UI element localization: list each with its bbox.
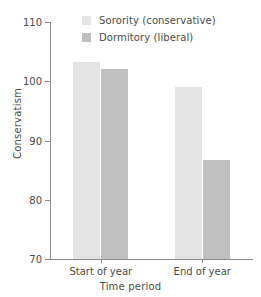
x-tick-mark (202, 259, 203, 263)
y-tick-mark (45, 141, 50, 142)
legend-item-dormitory: Dormitory (liberal) (82, 30, 216, 45)
bar-sorority (175, 87, 202, 259)
y-tick-label: 110 (23, 17, 42, 28)
legend-item-sorority: Sorority (conservative) (82, 13, 216, 28)
y-tick-mark (45, 200, 50, 201)
y-tick-label: 100 (23, 76, 42, 87)
x-tick-label: Start of year (69, 266, 132, 277)
legend-label-dormitory: Dormitory (liberal) (99, 32, 193, 43)
y-tick-label: 90 (29, 135, 42, 146)
y-tick-mark (45, 22, 50, 23)
x-tick-label: End of year (174, 266, 231, 277)
y-tick-label: 70 (29, 254, 42, 265)
bar-dormitory (101, 69, 128, 259)
plot-area: 708090100110Start of yearEnd of year (50, 22, 253, 259)
y-tick-mark (45, 259, 50, 260)
legend-swatch-icon-sorority (82, 16, 91, 25)
chart-legend: Sorority (conservative) Dormitory (liber… (82, 13, 216, 47)
bar-dormitory (203, 160, 230, 259)
legend-label-sorority: Sorority (conservative) (99, 15, 216, 26)
bar-sorority (73, 62, 100, 259)
y-tick-label: 80 (29, 194, 42, 205)
x-axis-line (50, 259, 253, 260)
legend-swatch-icon-dormitory (82, 33, 91, 42)
y-axis-title: Conservatism (12, 69, 23, 179)
y-tick-mark (45, 81, 50, 82)
bar-chart: Conservatism 708090100110Start of yearEn… (0, 0, 261, 297)
y-axis-line (50, 22, 51, 259)
x-tick-mark (101, 259, 102, 263)
x-axis-title: Time period (0, 281, 261, 292)
